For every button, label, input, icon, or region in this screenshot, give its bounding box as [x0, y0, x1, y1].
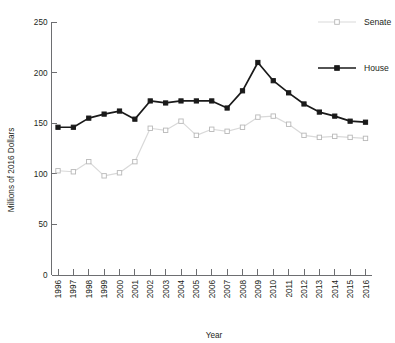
data-point — [56, 125, 60, 129]
data-point — [56, 169, 60, 173]
data-point — [194, 99, 198, 103]
data-point — [256, 60, 260, 64]
data-point — [148, 126, 152, 130]
data-point — [317, 110, 321, 114]
data-point — [148, 99, 152, 103]
data-point — [225, 106, 229, 110]
x-tick-label: 2007 — [223, 280, 232, 299]
legend-marker — [335, 66, 340, 71]
data-point — [348, 119, 352, 123]
data-point — [210, 127, 214, 131]
legend-marker — [335, 20, 340, 25]
y-tick-label: 100 — [34, 170, 48, 179]
data-point — [71, 125, 75, 129]
data-point — [302, 102, 306, 106]
data-point — [163, 128, 167, 132]
data-point — [71, 170, 75, 174]
x-tick-label: 2001 — [131, 280, 140, 299]
y-tick-label: 0 — [43, 271, 48, 280]
y-axis: 050100150200250 — [34, 18, 57, 280]
x-tick-label: 2010 — [269, 280, 278, 299]
data-point — [117, 109, 121, 113]
x-axis-title: Year — [206, 331, 223, 340]
data-point — [271, 114, 275, 118]
data-point — [240, 125, 244, 129]
x-tick-label: 2003 — [162, 280, 171, 299]
legend-item-house[interactable]: House — [318, 63, 389, 73]
x-tick-label: 1997 — [69, 280, 78, 299]
series-line — [58, 116, 366, 176]
x-tick-label: 1996 — [54, 280, 63, 299]
x-tick-label: 2004 — [177, 280, 186, 299]
data-point — [87, 116, 91, 120]
data-point — [117, 171, 121, 175]
x-tick-label: 2014 — [331, 280, 340, 299]
x-tick-label: 2000 — [116, 280, 125, 299]
data-point — [102, 112, 106, 116]
chart-container: 050100150200250 199619971998199920002001… — [0, 0, 395, 343]
y-tick-label: 250 — [34, 18, 48, 27]
x-tick-label: 2005 — [192, 280, 201, 299]
x-axis: 1996199719981999200020012002200320042005… — [52, 269, 373, 298]
x-tick-label: 2002 — [146, 280, 155, 299]
x-tick-label: 2012 — [300, 280, 309, 299]
chart-legend: SenateHouse — [318, 17, 391, 73]
series-house — [56, 60, 368, 129]
data-point — [179, 119, 183, 123]
data-point — [287, 91, 291, 95]
data-point — [271, 79, 275, 83]
x-tick-label: 2016 — [362, 280, 371, 299]
series-senate — [56, 114, 368, 178]
y-tick-label: 200 — [34, 69, 48, 78]
legend-label: House — [364, 63, 389, 73]
data-point — [348, 135, 352, 139]
data-point — [363, 136, 367, 140]
data-point — [317, 135, 321, 139]
x-tick-label: 2006 — [208, 280, 217, 299]
x-tick-label: 1998 — [85, 280, 94, 299]
data-point — [286, 122, 290, 126]
data-point — [194, 133, 198, 137]
data-point — [133, 117, 137, 121]
x-tick-label: 2011 — [285, 280, 294, 298]
data-point — [164, 101, 168, 105]
data-series-group — [56, 60, 368, 178]
data-point — [240, 89, 244, 93]
x-tick-label: 2013 — [315, 280, 324, 299]
series-line — [58, 62, 366, 127]
data-point — [333, 134, 337, 138]
data-point — [133, 159, 137, 163]
y-tick-label: 50 — [38, 220, 48, 229]
x-tick-label: 2008 — [239, 280, 248, 299]
data-point — [302, 133, 306, 137]
data-point — [363, 120, 367, 124]
y-tick-label: 150 — [34, 119, 48, 128]
legend-label: Senate — [364, 17, 391, 27]
x-tick-label: 1999 — [100, 280, 109, 299]
data-point — [333, 114, 337, 118]
data-point — [225, 129, 229, 133]
data-point — [256, 115, 260, 119]
y-axis-title: Millions of 2016 Dollars — [7, 128, 16, 213]
data-point — [87, 159, 91, 163]
x-tick-label: 2009 — [254, 280, 263, 299]
data-point — [179, 99, 183, 103]
data-point — [210, 99, 214, 103]
legend-item-senate[interactable]: Senate — [318, 17, 391, 27]
line-chart: 050100150200250 199619971998199920002001… — [0, 0, 395, 343]
x-tick-label: 2015 — [346, 280, 355, 299]
data-point — [102, 174, 106, 178]
